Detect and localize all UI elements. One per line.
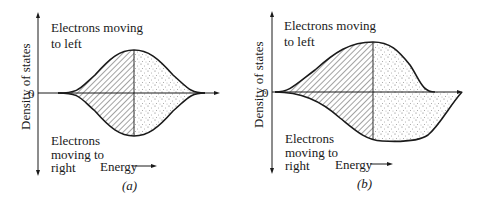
y-axis-up-arrow-icon <box>270 11 274 17</box>
lower-label-line1-a: Electrons <box>51 133 100 148</box>
panel-b: Density of states 0 Electrons moving to … <box>240 0 479 202</box>
panel-a: Density of states 0 Electrons moving to … <box>0 0 240 202</box>
y-axis-down-arrow-icon <box>36 170 40 176</box>
zero-label-a: 0 <box>28 86 35 102</box>
energy-arrow-icon <box>387 162 393 166</box>
upper-label-line1-b: Electrons moving <box>284 18 376 33</box>
caption-b: (b) <box>357 176 372 192</box>
y-axis-down-arrow-icon <box>270 168 274 174</box>
y-axis-up-arrow-icon <box>36 12 40 18</box>
x-axis-label-b: Energy <box>335 157 372 172</box>
lower-label-line3-a: right <box>51 160 76 175</box>
lower-label-line1-b: Electrons <box>285 131 334 146</box>
x-axis-label-a: Energy <box>100 159 137 174</box>
lower-label-line3-b: right <box>285 158 310 173</box>
x-axis-arrow-icon <box>214 91 220 95</box>
caption-a: (a) <box>122 178 137 194</box>
upper-label-line2-a: to left <box>51 36 82 51</box>
upper-label-line1-a: Electrons moving <box>51 20 143 35</box>
upper-label-line2-b: to left <box>284 34 315 49</box>
zero-label-b: 0 <box>262 85 269 101</box>
energy-arrow-icon <box>151 164 157 168</box>
